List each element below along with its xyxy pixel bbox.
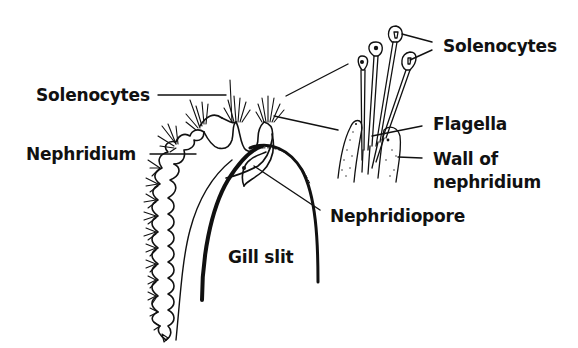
gill-slit-outline (176, 145, 318, 340)
label-nephridium: Nephridium (26, 145, 136, 164)
label-nephridium-wall: nephridium (433, 173, 541, 192)
solenocyte-detail (338, 26, 416, 182)
label-gill-slit: Gill slit (228, 248, 293, 267)
solenocyte-tuft (158, 124, 178, 152)
leader-solenocytes-right-2 (410, 50, 432, 60)
leader-detail-lower (274, 116, 338, 130)
leader-wall (398, 157, 422, 158)
solenocyte-tuft (186, 100, 208, 130)
leader-detail-upper (286, 64, 348, 96)
label-solenocytes-left: Solenocytes (36, 86, 150, 105)
leader-solenocytes-right-1 (402, 34, 432, 42)
solenocyte-cell (358, 56, 367, 172)
wall-stipple (385, 139, 396, 177)
label-nephridiopore: Nephridiopore (330, 207, 465, 226)
solenocyte-tuft (224, 80, 250, 122)
solenocyte-tuft-column (144, 160, 168, 342)
solenocyte-tuft (256, 96, 284, 122)
label-flagella: Flagella (433, 115, 507, 134)
label-solenocytes-right: Solenocytes (443, 37, 557, 56)
label-wall-of: Wall of (433, 150, 498, 169)
